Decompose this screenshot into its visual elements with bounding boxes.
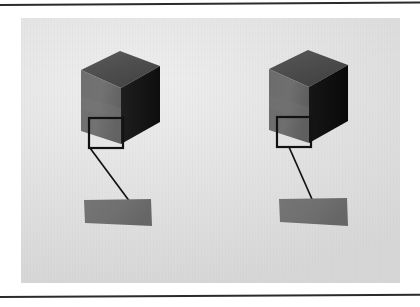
right-leader-line xyxy=(289,147,315,206)
figure-root xyxy=(0,0,420,307)
page-rule-top xyxy=(0,1,420,6)
right-cube xyxy=(269,50,348,143)
right-detail-patch xyxy=(279,198,348,226)
figure-scene xyxy=(21,18,400,283)
left-cube xyxy=(81,51,160,144)
figure-image-panel xyxy=(21,18,400,283)
left-leader-line xyxy=(90,148,133,206)
page-rule-bottom xyxy=(0,294,420,298)
left-detail-patch xyxy=(84,199,152,226)
